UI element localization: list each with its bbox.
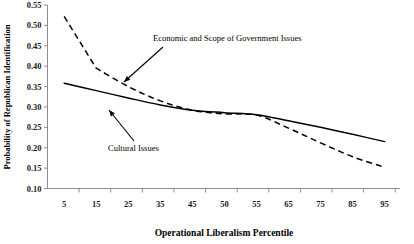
- y-axis-title: Probability of Republican Identification: [2, 24, 12, 169]
- x-tick-label: 75: [316, 199, 325, 209]
- y-tick-label: 0.10: [27, 184, 42, 194]
- economic-scope-label-arrow-line: [124, 47, 163, 82]
- y-tick-label: 0.55: [27, 0, 42, 10]
- y-tick-label: 0.40: [27, 61, 42, 71]
- x-axis-ticks: 515253545505565758595: [62, 189, 395, 209]
- chart-canvas: 0.100.150.200.250.300.350.400.450.500.55…: [0, 0, 414, 244]
- x-tick-label: 95: [380, 199, 389, 209]
- y-tick-label: 0.50: [27, 20, 42, 30]
- y-axis-ticks: 0.100.150.200.250.300.350.400.450.500.55: [27, 0, 48, 194]
- x-tick-label: 35: [156, 199, 165, 209]
- x-tick-label: 45: [188, 199, 197, 209]
- y-tick-label: 0.20: [27, 143, 42, 153]
- chart-figure: 0.100.150.200.250.300.350.400.450.500.55…: [0, 0, 414, 244]
- x-tick-label: 50: [220, 199, 229, 209]
- y-tick-label: 0.15: [27, 163, 42, 173]
- x-tick-label: 5: [62, 199, 66, 209]
- x-axis-title: Operational Liberalism Percentile: [155, 228, 294, 238]
- y-tick-label: 0.30: [27, 102, 42, 112]
- y-tick-label: 0.35: [27, 82, 42, 92]
- x-tick-label: 65: [284, 199, 293, 209]
- y-tick-label: 0.45: [27, 41, 42, 51]
- economic-scope-label: Economic and Scope of Government Issues: [124, 33, 301, 82]
- annotations-group: Economic and Scope of Government IssuesC…: [108, 33, 301, 153]
- cultural-issues-label-text: Cultural Issues: [108, 143, 159, 153]
- x-tick-label: 55: [252, 199, 261, 209]
- x-tick-label: 25: [124, 199, 133, 209]
- cultural-issues-label: Cultural Issues: [108, 110, 159, 153]
- x-tick-label: 15: [92, 199, 101, 209]
- y-tick-label: 0.25: [27, 122, 42, 132]
- economic-scope-label-text: Economic and Scope of Government Issues: [153, 33, 301, 43]
- x-tick-label: 85: [348, 199, 357, 209]
